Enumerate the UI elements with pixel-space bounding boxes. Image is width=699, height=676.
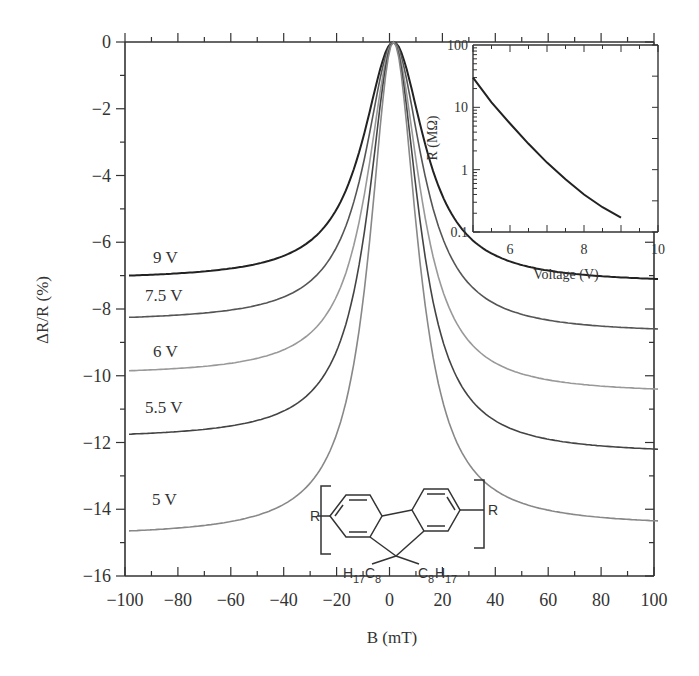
chem-r-left: R xyxy=(310,508,320,524)
inset-plot: 68100.1110100 Voltage (V) R (MΩ) xyxy=(425,38,665,283)
x-tick-label: −60 xyxy=(217,590,245,610)
curve-labels: 9 V 7.5 V 6 V 5.5 V 5 V xyxy=(145,248,183,509)
y-tick-label: −8 xyxy=(92,299,111,319)
label-6v: 6 V xyxy=(153,342,178,361)
y-tick-label: −4 xyxy=(92,166,111,186)
chem-h-right: H xyxy=(435,565,445,581)
chemical-structure xyxy=(318,480,484,564)
x-tick-label: 20 xyxy=(433,590,451,610)
inset-y-tick-label: 1 xyxy=(461,163,468,178)
inset-y-tick-label: 100 xyxy=(447,38,468,53)
inset-x-title: Voltage (V) xyxy=(533,267,599,283)
x-tick-label: −40 xyxy=(270,590,298,610)
inset-x-tick-label: 8 xyxy=(581,242,588,257)
label-5v: 5 V xyxy=(152,490,177,509)
y-axis-title: ΔR/R (%) xyxy=(33,276,52,344)
chem-c-left: C xyxy=(365,565,375,581)
y-tick-label: −6 xyxy=(92,232,111,252)
x-tick-label: −20 xyxy=(323,590,351,610)
chemical-labels: R R H 17 C 8 C 8 H 17 xyxy=(310,502,498,585)
y-tick-label: −10 xyxy=(83,366,111,386)
chem-8-right: 8 xyxy=(428,573,434,585)
x-tick-label: 60 xyxy=(539,590,557,610)
chem-8-left: 8 xyxy=(375,573,381,585)
label-5-5v: 5.5 V xyxy=(145,398,183,417)
y-tick-label: 0 xyxy=(102,32,111,52)
label-7-5v: 7.5 V xyxy=(145,286,183,305)
chem-17-left: 17 xyxy=(353,573,365,585)
x-tick-label: −80 xyxy=(164,590,192,610)
inset-y-tick-label: 10 xyxy=(454,100,468,115)
x-axis-tick-labels: −100−80−60−40−20020406080100 xyxy=(106,590,667,610)
magnetoresistance-chart: −100−80−60−40−20020406080100 0−2−4−6−8−1… xyxy=(0,0,699,676)
chem-c-right: C xyxy=(418,565,428,581)
inset-y-title: R (MΩ) xyxy=(425,115,441,160)
x-tick-label: −100 xyxy=(106,590,143,610)
y-tick-label: −14 xyxy=(83,499,111,519)
label-9v: 9 V xyxy=(153,248,178,267)
inset-x-tick-label: 6 xyxy=(507,242,514,257)
chem-17-right: 17 xyxy=(445,573,457,585)
x-tick-label: 0 xyxy=(385,590,394,610)
inset-y-tick-label: 0.1 xyxy=(451,225,469,240)
y-tick-label: −12 xyxy=(83,433,111,453)
chem-h-left: H xyxy=(343,565,353,581)
x-tick-label: 40 xyxy=(486,590,504,610)
y-tick-label: −16 xyxy=(83,566,111,586)
x-tick-label: 80 xyxy=(592,590,610,610)
chem-r-right: R xyxy=(488,502,498,518)
x-axis-title: B (mT) xyxy=(367,628,418,647)
y-tick-label: −2 xyxy=(92,99,111,119)
inset-x-tick-label: 10 xyxy=(651,242,665,257)
x-tick-label: 100 xyxy=(641,590,668,610)
y-axis-tick-labels: 0−2−4−6−8−10−12−14−16 xyxy=(83,32,111,586)
